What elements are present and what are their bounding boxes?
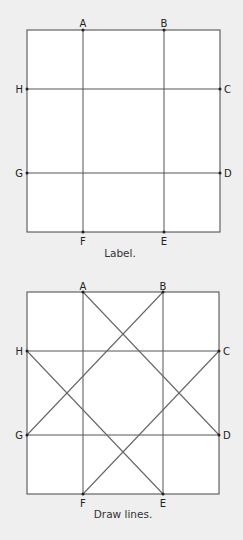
caption-label: Label. [104, 247, 136, 259]
point-label-f: F [80, 498, 86, 509]
point-label-f: F [80, 236, 86, 247]
point-label-c: C [224, 84, 231, 95]
point-label-h: H [15, 84, 23, 95]
diagram-canvas: A B C D E F G H Label. A B C D E F G H D… [0, 0, 243, 540]
point-label-d: D [224, 168, 232, 179]
point-label-b: B [161, 18, 168, 29]
caption-draw-lines: Draw lines. [94, 508, 153, 520]
diagram-draw-lines: A B C D E F G H Draw lines. [15, 281, 231, 520]
point-label-a: A [80, 18, 87, 29]
diagram-label: A B C D E F G H Label. [15, 18, 232, 259]
point-label-e: E [161, 236, 167, 247]
square-outline [27, 30, 220, 232]
point-label-b: B [160, 281, 167, 292]
point-label-c: C [223, 346, 230, 357]
point-label-g: G [15, 168, 23, 179]
point-label-e: E [160, 498, 166, 509]
point-label-h: H [15, 346, 23, 357]
point-label-d: D [223, 430, 231, 441]
point-label-g: G [15, 430, 23, 441]
square-outline [27, 292, 219, 494]
point-label-a: A [80, 281, 87, 292]
